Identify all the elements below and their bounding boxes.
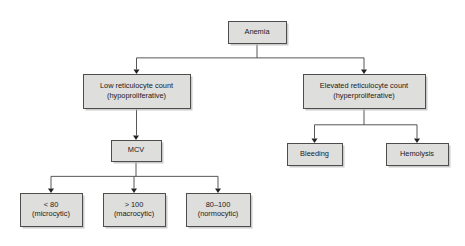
node-label: (normocytic) <box>198 209 239 218</box>
arrowhead-icon <box>361 69 367 74</box>
node-microcytic[interactable]: < 80(microcytic) <box>21 194 85 229</box>
arrowhead-icon <box>133 135 139 140</box>
node-macrocytic[interactable]: > 100(macrocytic) <box>104 194 168 229</box>
flowchart-canvas: AnemiaLow reticulocyte count(hypoprolife… <box>0 0 465 246</box>
node-bleeding[interactable]: Bleeding <box>288 144 345 168</box>
node-label: (hypoproliferative) <box>107 91 166 100</box>
node-label: MCV <box>128 145 144 154</box>
edges-from-elevated-retic <box>312 108 421 143</box>
node-label: (hyperproliferative) <box>333 91 395 100</box>
node-label: Elevated reticulocyte count <box>320 81 408 90</box>
node-label: (microcytic) <box>32 209 70 218</box>
node-label: Low reticulocyte count <box>100 81 173 90</box>
node-label: Anemia <box>244 27 270 36</box>
arrowhead-icon <box>48 188 54 193</box>
arrowhead-icon <box>215 188 221 193</box>
node-label: Hemolysis <box>400 149 434 158</box>
arrowhead-icon <box>131 188 137 193</box>
node-low-retic[interactable]: Low reticulocyte count(hypoproliferative… <box>84 75 193 111</box>
connector-layer <box>48 43 420 193</box>
node-label: Bleeding <box>300 149 329 158</box>
node-anemia[interactable]: Anemia <box>229 22 289 46</box>
edges-from-anemia <box>134 43 368 74</box>
node-label: 80–100 <box>206 200 231 209</box>
node-hemolysis[interactable]: Hemolysis <box>387 144 451 168</box>
edges-from-mcv <box>48 161 221 193</box>
node-label: (macrocytic) <box>114 209 154 218</box>
arrowhead-icon <box>414 138 420 143</box>
arrowhead-icon <box>134 69 140 74</box>
arrowhead-icon <box>312 138 318 143</box>
node-normocytic[interactable]: 80–100(normocytic) <box>187 194 253 229</box>
node-label: > 100 <box>125 200 144 209</box>
node-label: < 80 <box>44 200 59 209</box>
node-mcv[interactable]: MCV <box>112 141 164 164</box>
node-elevated-retic[interactable]: Elevated reticulocyte count(hyperprolife… <box>304 75 428 111</box>
edges-from-low-retic <box>133 108 139 140</box>
anemia-flowchart: AnemiaLow reticulocyte count(hypoprolife… <box>0 0 465 246</box>
